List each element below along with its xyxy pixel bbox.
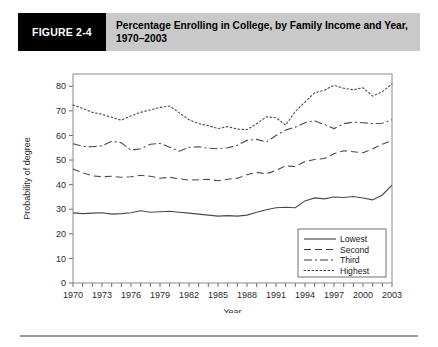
figure-number-badge: FIGURE 2-4 [18, 13, 106, 51]
chart-container: 01020304050607080 1970197319761979198219… [0, 58, 438, 313]
x-tick-label: 1970 [63, 290, 83, 300]
x-axis: 1970197319761979198219851988199119941997… [63, 283, 402, 300]
x-tick-label: 1994 [295, 290, 315, 300]
x-tick-label: 1988 [237, 290, 257, 300]
y-tick-label: 0 [61, 278, 66, 288]
series-line-lowest [73, 185, 392, 216]
x-tick-label: 1997 [324, 290, 344, 300]
x-tick-label: 2003 [382, 290, 402, 300]
line-chart: 01020304050607080 1970197319761979198219… [0, 58, 438, 313]
figure-header: FIGURE 2-4 Percentage Enrolling in Colle… [18, 13, 420, 51]
y-tick-label: 20 [56, 229, 66, 239]
y-tick-label: 60 [56, 131, 66, 141]
x-tick-label: 1976 [121, 290, 141, 300]
x-axis-title: Year [223, 307, 241, 313]
x-tick-label: 1982 [179, 290, 199, 300]
series-line-highest [73, 84, 392, 130]
figure-title-bar: Percentage Enrolling in College, by Fami… [106, 13, 420, 51]
y-tick-label: 70 [56, 106, 66, 116]
footer-divider [20, 335, 418, 337]
y-tick-label: 50 [56, 155, 66, 165]
y-tick-label: 80 [56, 81, 66, 91]
x-tick-label: 2000 [353, 290, 373, 300]
legend-label-third: Third [340, 255, 360, 265]
y-tick-label: 40 [56, 180, 66, 190]
x-tick-label: 1991 [266, 290, 286, 300]
chart-legend: LowestSecondThirdHighest [298, 229, 386, 277]
legend-label-lowest: Lowest [340, 234, 368, 244]
x-tick-label: 1979 [150, 290, 170, 300]
series-line-third [73, 120, 392, 151]
series-lines [73, 84, 392, 216]
figure-title: Percentage Enrolling in College, by Fami… [116, 19, 410, 46]
y-tick-label: 10 [56, 254, 66, 264]
x-tick-label: 1985 [208, 290, 228, 300]
figure-number-label: FIGURE 2-4 [32, 26, 92, 38]
y-tick-label: 30 [56, 204, 66, 214]
y-axis-title: Probability of degree [22, 137, 32, 220]
y-axis: 01020304050607080 [56, 81, 73, 288]
legend-label-second: Second [340, 245, 369, 255]
x-tick-label: 1973 [92, 290, 112, 300]
legend-label-highest: Highest [340, 266, 370, 276]
